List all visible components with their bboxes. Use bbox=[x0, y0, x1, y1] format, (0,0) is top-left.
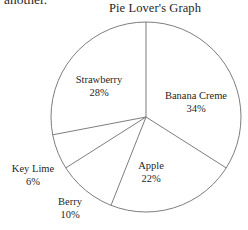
pie-graphic bbox=[0, 0, 248, 230]
slice-label-banana-creme-percent: 34% bbox=[152, 103, 240, 116]
slice-label-banana-creme-name: Banana Creme bbox=[165, 90, 227, 101]
slice-label-key-lime-name: Key Lime bbox=[12, 163, 54, 174]
slice-label-apple-percent: 22% bbox=[126, 173, 176, 186]
slice-label-banana-creme: Banana Creme 34% bbox=[152, 90, 240, 115]
slice-label-key-lime-percent: 6% bbox=[2, 176, 64, 189]
pie-chart-figure: another. Pie Lover's Graph Strawberry 28… bbox=[0, 0, 248, 230]
slice-label-strawberry-name: Strawberry bbox=[76, 74, 123, 85]
slice-label-berry-percent: 10% bbox=[48, 209, 92, 222]
slice-label-strawberry-percent: 28% bbox=[56, 87, 142, 100]
slice-label-strawberry: Strawberry 28% bbox=[56, 74, 142, 99]
slice-label-key-lime: Key Lime 6% bbox=[2, 163, 64, 188]
slice-label-apple-name: Apple bbox=[138, 160, 164, 171]
slice-label-berry: Berry 10% bbox=[48, 196, 92, 221]
slice-label-berry-name: Berry bbox=[58, 196, 82, 207]
slice-label-apple: Apple 22% bbox=[126, 160, 176, 185]
